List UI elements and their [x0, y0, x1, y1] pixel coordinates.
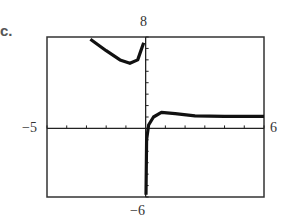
curves	[90, 39, 264, 194]
curve-left-branch	[90, 39, 143, 63]
curve-right-branch	[146, 112, 264, 194]
graph-plot	[0, 0, 296, 224]
